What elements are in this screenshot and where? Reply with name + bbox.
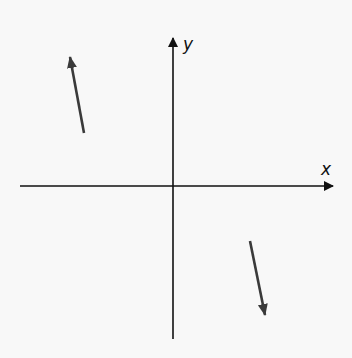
diagram-canvas: x y — [0, 0, 352, 358]
lower-right-vector — [250, 241, 265, 315]
y-axis-label: y — [182, 34, 194, 54]
axes-diagram: x y — [0, 0, 352, 358]
x-axis-label: x — [320, 159, 332, 179]
upper-left-vector — [70, 57, 84, 133]
